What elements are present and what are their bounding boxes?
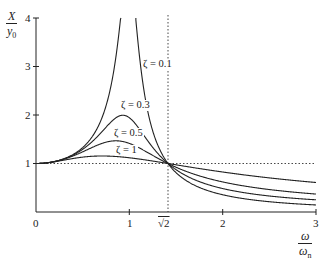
x-tick-2: 2 [220, 218, 226, 229]
curve-label-zeta-1: ζ = 1 [115, 145, 138, 156]
x-tick-3: 3 [313, 218, 319, 229]
curve-label-zeta-0-1: ζ = 0.1 [142, 59, 173, 70]
x-tick-sqrt2: √2 [158, 218, 170, 229]
curve-label-zeta-0-5: ζ = 0.5 [113, 128, 144, 139]
y-tick-1: 1 [25, 158, 31, 169]
x-tick-1: 1 [127, 218, 133, 229]
y-tick-2: 2 [25, 110, 31, 121]
reference-lines [36, 15, 316, 212]
curve-label-zeta-0-3: ζ = 0.3 [120, 100, 151, 111]
curve--0-1 [36, 18, 316, 205]
x-tick-0: 0 [33, 218, 39, 229]
axes [33, 18, 316, 215]
y-axis-label: X y0 [6, 10, 17, 40]
y-tick-3: 3 [25, 61, 31, 72]
curve--0-5 [36, 141, 316, 194]
curves [36, 18, 316, 205]
x-axis-label: ω ωn [298, 230, 312, 260]
y-tick-4: 4 [25, 13, 31, 24]
